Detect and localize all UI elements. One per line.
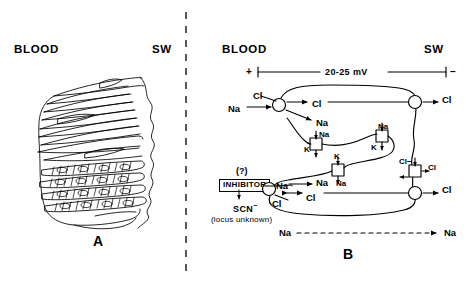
membrane-seg-a [287,118,311,144]
lower-cl-in-arrow [275,195,288,200]
upper-cell-top-envelope [281,85,415,100]
voltage-bracket [258,67,446,77]
diagram-vector-overlay [0,0,467,284]
sw-channel-upper [409,96,439,109]
pump-3 [332,157,344,184]
upper-na-out-arrow [286,110,311,120]
lower-cell-bottom-envelope [269,196,415,216]
sw-exchanger [400,158,429,177]
lower-na-link [276,185,292,186]
membrane-seg-b [322,134,377,145]
panel-b-diagram [239,67,446,233]
pump-1 [310,131,322,157]
figure-root: BLOOD SW A BLOOD SW B + 20-25 mV − Cl Na… [0,0,467,284]
lower-carrier-circle [263,183,276,196]
panel-a-drawing [38,77,154,229]
sw-channel-lower [409,187,439,200]
pump-2 [376,123,388,150]
sw-apical-membrane [412,100,417,198]
upper-cl-in-arrow [261,96,276,101]
